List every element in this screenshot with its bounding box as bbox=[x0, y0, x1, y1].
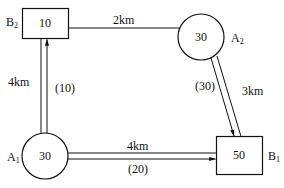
edge-a1-b1-flow: (20) bbox=[128, 163, 148, 175]
node-a2-value: 30 bbox=[195, 31, 207, 43]
transport-diagram: 10 30 30 50 B2 A2 A1 B1 2km 4km (10) 3km… bbox=[0, 0, 284, 188]
node-a1-label: A1 bbox=[7, 151, 20, 165]
node-b1-value: 50 bbox=[233, 149, 245, 161]
edge-a1-b2 bbox=[41, 39, 47, 134]
edge-a1-b1-distance: 4km bbox=[127, 140, 148, 152]
edge-b2-a2-distance: 2km bbox=[113, 14, 134, 26]
node-a1-value: 30 bbox=[39, 150, 51, 162]
node-b2-label: B2 bbox=[6, 16, 18, 30]
edge-a1-b1 bbox=[68, 153, 217, 159]
edge-a2-b1-distance: 3km bbox=[242, 85, 263, 97]
edge-a2-b1 bbox=[211, 56, 241, 137]
edge-a2-b1-flow: (30) bbox=[195, 80, 215, 92]
node-b2-value: 10 bbox=[39, 17, 51, 29]
edge-a1-b2-distance: 4km bbox=[8, 76, 29, 88]
node-b1-label: B1 bbox=[268, 150, 280, 164]
edge-a1-b2-flow: (10) bbox=[55, 82, 75, 94]
node-a2-label: A2 bbox=[231, 32, 244, 46]
